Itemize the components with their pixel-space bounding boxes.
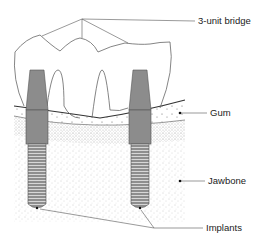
label-3-unit-bridge: 3-unit bridge [198,15,251,26]
implant-bridge-diagram [0,0,266,240]
right-implant [129,70,151,209]
left-implant [26,70,48,209]
label-gum: Gum [210,107,231,118]
label-jawbone: Jawbone [208,175,246,186]
label-implants: Implants [206,222,242,233]
